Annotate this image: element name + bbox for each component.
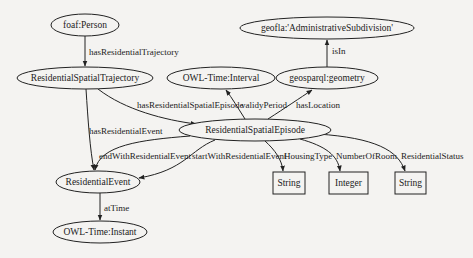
- svg-text:Integer: Integer: [335, 178, 363, 188]
- svg-text:ResidentialEvent: ResidentialEvent: [66, 177, 131, 187]
- edge-label-validy-period: validyPeriod: [241, 100, 287, 110]
- svg-text:String: String: [277, 178, 300, 188]
- node-string-housing-type: String: [273, 172, 305, 194]
- node-foaf-person: foaf:Person: [51, 14, 119, 36]
- node-owl-time-interval: OWL-Time:Interval: [167, 67, 275, 89]
- edge-label-has-residential-event: hasResidentialEvent: [89, 126, 163, 136]
- edge-label-has-residential-spatial-episode: hasResidentialSpatialEpisode: [137, 100, 243, 110]
- node-residential-event: ResidentialEvent: [56, 171, 140, 193]
- svg-text:OWL-Time:Interval: OWL-Time:Interval: [183, 73, 260, 83]
- edge-label-end-with-residential-event: endWithResidentialEvent: [99, 151, 192, 161]
- svg-text:foaf:Person: foaf:Person: [63, 20, 107, 30]
- svg-text:ResidentialSpatialTrajectory: ResidentialSpatialTrajectory: [31, 73, 140, 83]
- svg-text:ResidentialSpatialEpisode: ResidentialSpatialEpisode: [205, 125, 305, 135]
- node-residential-spatial-episode: ResidentialSpatialEpisode: [179, 119, 331, 141]
- edge-label-start-with-residential-event: startWithResidentialEvent: [192, 151, 287, 161]
- node-integer-number-of-room: Integer: [329, 172, 368, 194]
- svg-text:geofla:'AdministrativeSubdivis: geofla:'AdministrativeSubdivision': [261, 23, 393, 33]
- node-geosparql-geometry: geosparql:geometry: [276, 67, 378, 89]
- node-owl-time-instant: OWL-Time:Instant: [53, 221, 147, 243]
- edge-label-number-of-room: NumberOfRoom: [336, 151, 397, 161]
- node-residential-spatial-trajectory: ResidentialSpatialTrajectory: [17, 67, 153, 89]
- node-geofla-administrative-subdivision: geofla:'AdministrativeSubdivision': [240, 17, 414, 39]
- svg-text:OWL-Time:Instant: OWL-Time:Instant: [63, 227, 136, 237]
- ontology-diagram: hasResidentialTrajectory hasResidentialS…: [0, 0, 473, 258]
- edge-label-housing-type: HousingType: [284, 151, 332, 161]
- node-string-residential-status: String: [395, 172, 426, 194]
- svg-text:String: String: [399, 178, 422, 188]
- edge-label-is-in: isIn: [332, 46, 346, 56]
- edge-label-has-location: hasLocation: [296, 100, 340, 110]
- edge-label-has-residential-trajectory: hasResidentialTrajectory: [89, 47, 179, 57]
- svg-text:geosparql:geometry: geosparql:geometry: [289, 73, 365, 83]
- edge-label-residential-status: ResidentialStatus: [401, 151, 464, 161]
- edge-label-at-time: atTime: [104, 203, 129, 213]
